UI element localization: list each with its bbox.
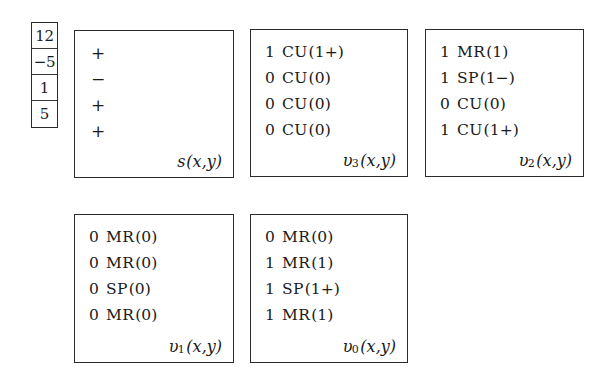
box-caption: υ3(x,y) — [343, 151, 396, 170]
bit-mnemonic: SP — [106, 280, 128, 298]
bit-arg: (0) — [135, 254, 157, 272]
value-cell: 1 — [32, 75, 57, 101]
bit-mnemonic: MR — [106, 306, 134, 324]
bit-row: 1MR(1) — [440, 39, 573, 65]
bit-row: 0CU(0) — [265, 91, 397, 117]
caption-symbol: s — [177, 152, 185, 171]
bit-value: 0 — [265, 224, 282, 250]
bit-op: MR(0) — [282, 224, 333, 250]
bit-arg: (1) — [311, 254, 333, 272]
bit-row: 0MR(0) — [89, 224, 223, 250]
sign-row: + — [89, 92, 223, 118]
bit-box-v3: 1CU(1+) 0CU(0) 0CU(0) 0CU(0) υ3(x,y) — [250, 29, 408, 177]
bit-value: 0 — [265, 91, 282, 117]
bit-arg: (0) — [135, 306, 157, 324]
bit-arg: (1) — [486, 43, 508, 61]
bit-arg: (0) — [309, 95, 331, 113]
bit-arg: (0) — [484, 95, 506, 113]
bit-mnemonic: SP — [282, 280, 304, 298]
bit-op: SP(1−) — [457, 65, 515, 91]
bit-mnemonic: SP — [457, 69, 479, 87]
bit-value: 0 — [265, 117, 282, 143]
bit-value: 1 — [265, 39, 282, 65]
bit-value: 1 — [440, 39, 457, 65]
bit-slice-decomposition-figure: 12 −5 1 5 + − + + s(x,y) 1CU(1+) 0CU(0) … — [0, 0, 612, 390]
bit-row: 1SP(1−) — [440, 65, 573, 91]
bit-op: CU(1+) — [282, 39, 344, 65]
caption-symbol: υ — [169, 337, 179, 356]
bit-value: 0 — [265, 65, 282, 91]
bit-value: 0 — [440, 91, 457, 117]
sign-row-list: + − + + — [89, 40, 223, 144]
bit-arg: (1) — [311, 306, 333, 324]
bit-row-list: 1CU(1+) 0CU(0) 0CU(0) 0CU(0) — [265, 39, 397, 143]
bit-arg: (0) — [311, 228, 333, 246]
bit-row: 0MR(0) — [89, 250, 223, 276]
bit-arg: (0) — [309, 69, 331, 87]
bit-row: 0CU(0) — [265, 117, 397, 143]
bit-row: 0SP(0) — [89, 276, 223, 302]
bit-row-list: 0MR(0) 0MR(0) 0SP(0) 0MR(0) — [89, 224, 223, 328]
caption-subscript: 0 — [352, 343, 359, 356]
sign-box-s: + − + + s(x,y) — [74, 30, 234, 178]
caption-symbol: υ — [519, 151, 529, 170]
bit-row: 1SP(1+) — [265, 276, 397, 302]
bit-mnemonic: MR — [457, 43, 485, 61]
sign-row: + — [89, 118, 223, 144]
bit-arg: (1−) — [480, 69, 515, 87]
bit-value: 0 — [89, 224, 106, 250]
bit-op: CU(0) — [282, 91, 331, 117]
bit-row-list: 1MR(1) 1SP(1−) 0CU(0) 1CU(1+) — [440, 39, 573, 143]
bit-arg: (1+) — [305, 280, 340, 298]
caption-args: (x,y) — [360, 337, 396, 356]
bit-mnemonic: CU — [282, 69, 308, 87]
bit-op: CU(0) — [282, 65, 331, 91]
bit-box-v1: 0MR(0) 0MR(0) 0SP(0) 0MR(0) υ1(x,y) — [74, 214, 234, 363]
box-caption: υ0(x,y) — [343, 337, 396, 356]
bit-op: MR(0) — [106, 224, 157, 250]
caption-symbol: υ — [343, 337, 353, 356]
bit-row: 0CU(0) — [440, 91, 573, 117]
bit-op: SP(0) — [106, 276, 151, 302]
bit-mnemonic: CU — [457, 121, 483, 139]
value-cell: −5 — [32, 49, 57, 75]
bit-op: MR(0) — [106, 302, 157, 328]
bit-value: 1 — [265, 250, 282, 276]
bit-arg: (0) — [129, 280, 151, 298]
bit-mnemonic: MR — [282, 306, 310, 324]
box-caption: υ1(x,y) — [169, 337, 222, 356]
bit-value: 1 — [265, 302, 282, 328]
caption-args: (x,y) — [360, 151, 396, 170]
bit-row: 1MR(1) — [265, 250, 397, 276]
caption-subscript: 2 — [528, 157, 535, 170]
box-caption: s(x,y) — [177, 152, 222, 171]
bit-mnemonic: MR — [282, 254, 310, 272]
bit-row: 1MR(1) — [265, 302, 397, 328]
bit-value: 0 — [89, 302, 106, 328]
bit-op: MR(1) — [282, 250, 333, 276]
bit-row: 0CU(0) — [265, 65, 397, 91]
bit-op: MR(0) — [106, 250, 157, 276]
bit-value: 0 — [89, 276, 106, 302]
sign-row: − — [89, 66, 223, 92]
bit-mnemonic: MR — [282, 228, 310, 246]
bit-row-list: 0MR(0) 1MR(1) 1SP(1+) 1MR(1) — [265, 224, 397, 328]
bit-box-v0: 0MR(0) 1MR(1) 1SP(1+) 1MR(1) υ0(x,y) — [250, 214, 408, 363]
value-cell: 5 — [32, 101, 57, 127]
bit-op: MR(1) — [457, 39, 508, 65]
caption-subscript: 3 — [352, 157, 359, 170]
bit-arg: (1+) — [484, 121, 519, 139]
caption-args: (x,y) — [186, 152, 222, 171]
bit-row: 0MR(0) — [265, 224, 397, 250]
box-caption: υ2(x,y) — [519, 151, 572, 170]
bit-op: CU(0) — [282, 117, 331, 143]
bit-op: SP(1+) — [282, 276, 340, 302]
input-value-column: 12 −5 1 5 — [31, 22, 58, 128]
value-cell: 12 — [32, 23, 57, 49]
bit-arg: (0) — [135, 228, 157, 246]
bit-mnemonic: CU — [282, 121, 308, 139]
bit-arg: (1+) — [309, 43, 344, 61]
bit-row: 1CU(1+) — [265, 39, 397, 65]
bit-row: 1CU(1+) — [440, 117, 573, 143]
bit-value: 1 — [440, 117, 457, 143]
